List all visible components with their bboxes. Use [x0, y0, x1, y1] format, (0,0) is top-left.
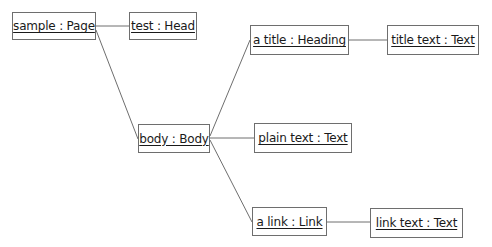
node-link-text: link text : Text [370, 208, 463, 238]
edge-body-heading [210, 40, 250, 136]
node-title-text: title text : Text [387, 25, 479, 55]
node-plain-text: plain text : Text [254, 123, 352, 153]
node-label: link text : Text [376, 216, 457, 230]
edge-body-link [210, 140, 252, 222]
node-label: sample : Page [13, 19, 95, 33]
node-label: test : Head [131, 19, 195, 33]
node-label: body : Body [139, 132, 208, 146]
node-sample-page: sample : Page [12, 12, 96, 40]
node-heading: a title : Heading [250, 25, 349, 55]
edge-page-body [96, 30, 138, 139]
node-label: plain text : Text [258, 131, 347, 145]
node-label: title text : Text [391, 33, 475, 47]
object-diagram: sample : Page test : Head body : Body a … [0, 0, 492, 247]
node-label: a link : Link [256, 215, 322, 229]
node-body: body : Body [138, 124, 210, 153]
node-label: a title : Heading [253, 33, 346, 47]
node-link: a link : Link [252, 207, 327, 236]
node-test-head: test : Head [129, 12, 197, 40]
